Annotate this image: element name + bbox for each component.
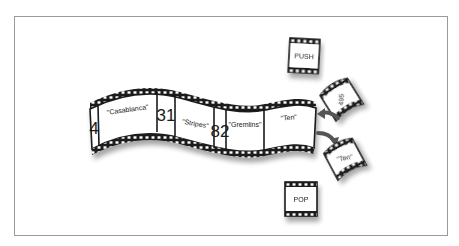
push-card: PUSH bbox=[288, 38, 320, 74]
incoming-label: 495 bbox=[337, 93, 345, 105]
outgoing-card-ten: "Ten" bbox=[322, 136, 366, 180]
strip-frame-82: 82 bbox=[211, 122, 230, 141]
strip-frame-4: 4 bbox=[89, 119, 98, 138]
strip-frame-gremlins: "Gremlins" bbox=[229, 121, 262, 128]
push-label: PUSH bbox=[294, 52, 314, 60]
strip-label: 31 bbox=[157, 106, 176, 125]
strip-label: "Gremlins" bbox=[229, 121, 262, 128]
pop-card: POP bbox=[285, 182, 317, 216]
pop-label: POP bbox=[294, 196, 309, 203]
strip-label: 4 bbox=[89, 119, 98, 138]
strip-label: 82 bbox=[211, 122, 230, 141]
stack-diagram: 4 "Casablanca" 31 "Stripes" 82 "Gremlins… bbox=[0, 0, 459, 246]
strip-frame-31: 31 bbox=[157, 106, 176, 125]
